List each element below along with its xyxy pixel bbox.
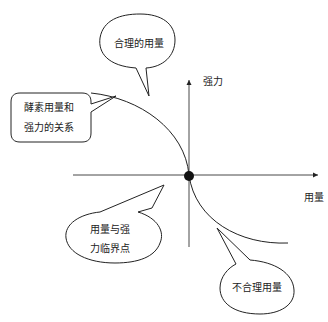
callout-text-relationship-1: 酵素用量和 (24, 100, 74, 116)
diagram-canvas (0, 0, 328, 322)
callout-text-reasonable-dosage: 合理的用量 (114, 36, 164, 52)
callout-text-unreasonable-dosage: 不合理用量 (232, 280, 282, 296)
callout-reasonable-dosage (100, 14, 175, 96)
critical-point-dot (184, 171, 194, 181)
x-axis-label: 用量 (304, 190, 324, 206)
callout-text-critical-point-2: 力临界点 (90, 241, 130, 257)
y-axis-label: 强力 (203, 74, 223, 90)
callout-text-critical-point-1: 用量与强 (90, 222, 130, 238)
callout-unreasonable-dosage (217, 228, 294, 314)
callout-text-relationship-2: 强力的关系 (24, 120, 74, 136)
